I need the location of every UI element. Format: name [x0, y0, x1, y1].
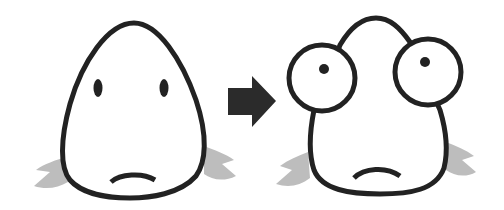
after-fish	[276, 18, 476, 194]
arrow-right-icon	[228, 76, 276, 127]
left-eye-icon	[94, 79, 103, 97]
right-bulging-eye-icon	[395, 39, 461, 105]
right-fin-icon	[204, 146, 236, 180]
left-bulging-eye-icon	[289, 45, 355, 111]
before-fish	[34, 23, 236, 198]
fish-transformation-illustration	[0, 0, 504, 210]
left-fin-icon	[276, 152, 310, 186]
left-pupil-icon	[319, 64, 329, 74]
teardrop-head	[63, 23, 205, 198]
right-fin-icon	[446, 142, 476, 176]
right-eye-icon	[160, 79, 169, 97]
right-pupil-icon	[420, 57, 430, 67]
illustration-stage	[0, 0, 504, 210]
